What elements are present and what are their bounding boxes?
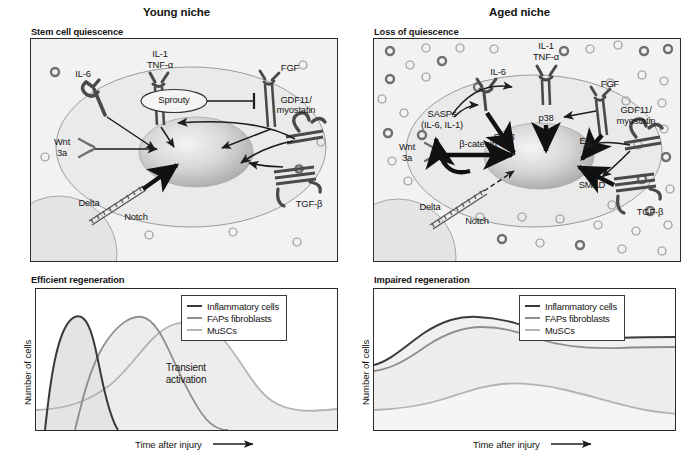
label-bcatenin: β-catenin bbox=[459, 139, 496, 150]
legend-swatch-faps bbox=[525, 317, 540, 319]
label-gdf11-aged-1: GDF11/ bbox=[620, 105, 651, 116]
legend-label-inflammatory: Inflammatory cells bbox=[545, 301, 617, 312]
legend-label-inflammatory: Inflammatory cells bbox=[207, 301, 279, 312]
label-il1-young: IL-1 bbox=[152, 49, 168, 60]
label-smad: SMAD bbox=[579, 180, 606, 191]
subtitle-efficient-regeneration: Efficient regeneration bbox=[31, 275, 124, 285]
neighbor-cell bbox=[373, 199, 456, 262]
legend-label-faps: FAPs fibroblasts bbox=[207, 313, 272, 324]
legend-item-muscs: MuSCs bbox=[525, 324, 617, 336]
y-axis-label-right: Number of cells bbox=[360, 340, 371, 405]
label-il6-young: IL-6 bbox=[75, 69, 91, 80]
legend-label-muscs: MuSCs bbox=[207, 325, 237, 336]
legend-swatch-muscs bbox=[187, 329, 202, 331]
label-fgf-aged: FGF bbox=[601, 79, 619, 90]
nucleus bbox=[139, 117, 253, 187]
legend-swatch-inflammatory bbox=[187, 305, 202, 307]
impaired-regeneration-chart: Inflammatory cells FAPs fibroblasts MuSC… bbox=[373, 288, 676, 431]
annotation-transient-activation-line1: Transientactivation bbox=[166, 362, 207, 386]
legend-swatch-muscs bbox=[525, 329, 540, 331]
aged-niche-diagram: IL-1 TNF-α IL-6 SASPs (IL-6, IL-1) Stat3… bbox=[373, 38, 681, 262]
y-axis-label-left: Number of cells bbox=[22, 340, 33, 405]
label-gdf11-aged-2: myostatin bbox=[617, 116, 656, 127]
legend-label-muscs: MuSCs bbox=[545, 325, 575, 336]
panel-title-young: Young niche bbox=[143, 6, 210, 18]
legend-item-inflammatory: Inflammatory cells bbox=[187, 300, 279, 312]
label-wnt-young-1: Wnt bbox=[54, 137, 70, 148]
label-wnt-aged-1: Wnt bbox=[399, 142, 415, 153]
legend-label-faps: FAPs fibroblasts bbox=[545, 313, 610, 324]
subtitle-stem-cell-quiescence: Stem cell quiescence bbox=[31, 27, 123, 37]
label-fgf-young: FGF bbox=[281, 63, 299, 74]
subtitle-impaired-regeneration: Impaired regeneration bbox=[374, 275, 470, 285]
efficient-regeneration-chart: Transientactivation Inflammatory cells F… bbox=[35, 288, 338, 431]
label-il6-aged: IL-6 bbox=[490, 67, 506, 78]
x-axis-label-left: Time after injury bbox=[135, 439, 202, 450]
label-notch-aged: Notch bbox=[465, 216, 489, 227]
legend-item-muscs: MuSCs bbox=[187, 324, 279, 336]
legend-left: Inflammatory cells FAPs fibroblasts MuSC… bbox=[181, 295, 287, 341]
label-p38: p38 bbox=[538, 113, 553, 124]
label-erk: ERK bbox=[580, 136, 599, 147]
label-wnt-aged-2: 3a bbox=[402, 153, 412, 164]
label-wnt-young-2: 3a bbox=[57, 148, 67, 159]
legend-item-inflammatory: Inflammatory cells bbox=[525, 300, 617, 312]
label-gdf11-young-2: myostatin bbox=[277, 105, 316, 116]
aged-diagram-svg bbox=[374, 39, 680, 261]
legend-swatch-inflammatory bbox=[525, 305, 540, 307]
label-tgfb-aged: TGF-β bbox=[637, 207, 664, 218]
subtitle-loss-of-quiescence: Loss of quiescence bbox=[374, 27, 458, 37]
label-delta-aged: Delta bbox=[419, 202, 440, 213]
young-niche-diagram: IL-1 TNF-α IL-6 Sprouty FGF GDF11/ myost… bbox=[30, 38, 338, 262]
label-il1-aged: IL-1 bbox=[538, 41, 554, 52]
label-notch-young: Notch bbox=[124, 212, 148, 223]
label-delta-young: Delta bbox=[78, 198, 99, 209]
label-tgfb-young: TGF-β bbox=[296, 199, 323, 210]
label-tnfa-young: TNF-α bbox=[147, 60, 173, 71]
panel-title-aged: Aged niche bbox=[489, 6, 550, 18]
label-sasps-2: (IL-6, IL-1) bbox=[421, 120, 463, 131]
legend-item-faps: FAPs fibroblasts bbox=[187, 312, 279, 324]
x-axis-label-right: Time after injury bbox=[473, 439, 540, 450]
legend-right: Inflammatory cells FAPs fibroblasts MuSC… bbox=[519, 295, 625, 341]
legend-swatch-faps bbox=[187, 317, 202, 319]
legend-item-faps: FAPs fibroblasts bbox=[525, 312, 617, 324]
label-sprouty: Sprouty bbox=[158, 95, 189, 106]
figure-root: Young niche Stem cell quiescence bbox=[0, 0, 687, 469]
label-tnfa-aged: TNF-α bbox=[533, 52, 559, 63]
label-sasps-1: SASPs bbox=[428, 109, 457, 120]
